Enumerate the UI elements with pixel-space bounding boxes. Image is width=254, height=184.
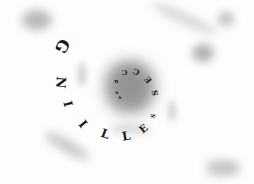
spiral-letter: s xyxy=(119,95,122,100)
blur-arc-top xyxy=(151,0,219,38)
spiral-artwork: ssuCCESSELLIING xyxy=(0,0,254,184)
blur-shape-bottom-left xyxy=(42,128,91,163)
blur-shape-top-left xyxy=(22,10,52,30)
spiral-letter: G xyxy=(51,36,72,56)
spiral-letter: u xyxy=(114,79,118,85)
spiral-letter: C xyxy=(122,69,128,76)
spiral-letter: S xyxy=(150,113,157,119)
blur-arc-right xyxy=(192,44,214,62)
spiral-letter: L xyxy=(99,127,111,141)
blur-stroke-left xyxy=(78,62,86,86)
blur-center-core xyxy=(112,66,148,106)
spiral-letter: s xyxy=(116,90,119,95)
blur-stroke-right xyxy=(168,100,176,122)
spiral-letter: I xyxy=(61,100,74,109)
blur-shape-bottom-right xyxy=(206,160,240,176)
spiral-letter: I xyxy=(76,118,89,130)
spiral-letter: N xyxy=(53,76,67,89)
spiral-letter: L xyxy=(121,129,131,142)
spiral-letter: S xyxy=(150,89,159,96)
blur-shape-top-right xyxy=(218,12,234,26)
